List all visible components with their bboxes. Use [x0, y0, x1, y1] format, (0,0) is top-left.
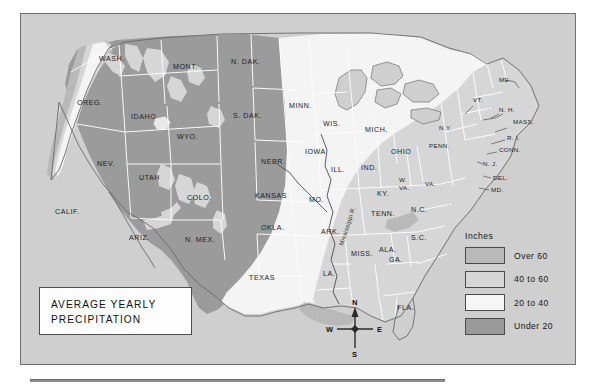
legend-item-under-20: Under 20	[452, 316, 572, 337]
legend-item-20-to-40: 20 to 40	[452, 292, 572, 313]
legend-label-20-to-40: 20 to 40	[514, 298, 549, 308]
legend-label-under-20: Under 20	[514, 321, 553, 331]
compass-label-east: E	[377, 325, 382, 334]
legend-label-over-60: Over 60	[514, 251, 548, 261]
compass-label-north: N	[352, 298, 357, 307]
legend-label-40-to-60: 40 to 60	[514, 274, 549, 284]
map-title-line-1: AVERAGE YEARLY	[51, 297, 191, 312]
compass-rose: N E S W	[322, 296, 388, 358]
legend-item-over-60: Over 60	[452, 245, 572, 266]
legend-swatch-over-60	[465, 247, 505, 264]
legend-swatch-under-20	[465, 318, 505, 335]
compass-center	[351, 325, 359, 333]
map-title-box: AVERAGE YEARLY PRECIPITATION	[39, 287, 192, 335]
map-title-line-2: PRECIPITATION	[51, 312, 191, 327]
legend-heading: Inches	[465, 231, 572, 241]
bottom-divider	[30, 379, 445, 382]
map-page: Mississippi R. WASH. OREG. IDAHO MONT. N…	[0, 0, 596, 387]
map-legend: Inches Over 60 40 to 60 20 to 40 Under 2…	[452, 231, 572, 343]
compass-label-south: S	[352, 350, 357, 358]
legend-swatch-20-to-40	[465, 294, 505, 311]
compass-north-arrow	[352, 307, 359, 317]
legend-swatch-40-to-60	[465, 271, 505, 288]
legend-item-40-to-60: 40 to 60	[452, 269, 572, 290]
compass-label-west: W	[326, 325, 334, 334]
